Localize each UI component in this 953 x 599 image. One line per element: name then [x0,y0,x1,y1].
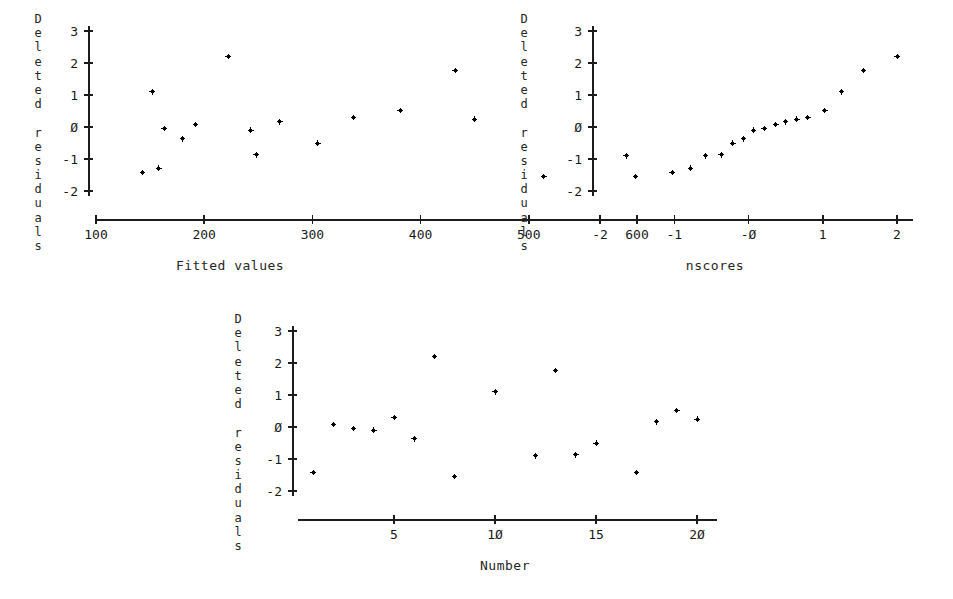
y-axis-title-char: d [230,482,246,496]
y-axis-title-char: s [230,454,246,468]
y-axis-tick-label: -1 [248,453,282,466]
x-axis-tick-label: 5 [364,528,424,541]
x-axis-tick-label: 15 [566,528,626,541]
data-point [595,442,598,445]
plot-residuals-vs-order: Deleted residuals321Ø-1-251Ø152ØNumber [0,0,953,599]
data-point [554,369,557,372]
y-axis-tick-label: 1 [248,389,282,402]
y-axis-tick [288,458,297,460]
y-axis-tick [288,490,297,492]
data-point [372,429,375,432]
data-point [696,418,699,421]
y-axis-title-char: D [230,312,246,326]
y-axis-tick [288,394,297,396]
y-axis-tick [288,330,297,332]
y-axis-title-char: a [230,511,246,525]
y-axis-tick-label: 2 [248,357,282,370]
data-point [574,453,577,456]
y-axis-tick-label: Ø [248,421,282,434]
x-axis-tick [393,515,395,524]
data-point [433,355,436,358]
data-point [312,471,315,474]
y-axis-title: Deleted residuals [230,312,246,553]
data-point [453,475,456,478]
y-axis-title-char: d [230,397,246,411]
y-axis-tick-label: -2 [248,485,282,498]
data-point [534,454,537,457]
y-axis-title-char: u [230,496,246,510]
y-axis-tick-label: 3 [248,325,282,338]
data-point [393,416,396,419]
data-point [655,420,658,423]
y-axis-title-char: l [230,340,246,354]
x-axis-title: Number [395,558,615,573]
y-axis-title-char: e [230,355,246,369]
x-axis-tick [696,515,698,524]
x-axis-tick-label: 2Ø [667,528,727,541]
data-point [494,390,497,393]
x-axis-tick [595,515,597,524]
residual-plots-figure: Deleted residuals321Ø-1-2100200300400500… [0,0,953,599]
x-axis-tick [494,515,496,524]
y-axis-title-char: r [230,426,246,440]
data-point [352,427,355,430]
y-axis-title-char: e [230,383,246,397]
data-point [332,423,335,426]
y-axis-title-char: t [230,369,246,383]
data-point [413,437,416,440]
y-axis-title-char: e [230,326,246,340]
x-axis-tick-label: 1Ø [465,528,525,541]
data-point [675,409,678,412]
y-axis-line [292,326,294,496]
y-axis-title-char: l [230,525,246,539]
y-axis-title-char [230,411,246,425]
y-axis-tick [288,362,297,364]
y-axis-title-char: i [230,468,246,482]
y-axis-tick [288,426,297,428]
data-point [635,471,638,474]
y-axis-title-char: e [230,440,246,454]
x-axis-line [298,519,717,521]
y-axis-title-char: s [230,539,246,553]
